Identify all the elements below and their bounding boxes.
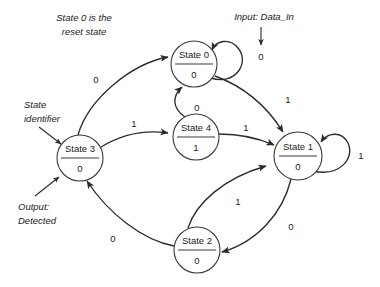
transition-label-s0-s1: 1	[285, 94, 290, 105]
state-label-s2: State 2	[182, 235, 212, 246]
annotation-state-identifier: State identifier	[24, 99, 61, 144]
annotation-output-detected-arrow	[35, 177, 59, 196]
transition-s0-s1	[215, 76, 283, 132]
transition-s2-s1	[188, 166, 266, 228]
annotation-state-identifier-arrow	[39, 127, 61, 144]
annotation-reset-note: State 0 is the reset state	[56, 12, 111, 37]
annotation-output-detected-line1: Output:	[18, 201, 50, 212]
transition-label-s2-s1: 1	[235, 196, 240, 207]
state-machine-diagram: 0 1 0 0 1 1 1 0 1 0 State 0	[0, 0, 380, 287]
annotation-input-data-in-line1: Input: Data_In	[234, 11, 294, 22]
state-output-s1: 0	[295, 161, 300, 172]
state-output-s4: 1	[193, 142, 198, 153]
annotation-input-data-in: Input: Data_In	[234, 11, 294, 45]
annotation-state-identifier-line1: State	[24, 99, 46, 110]
state-label-s1: State 1	[283, 141, 313, 152]
state-output-s2: 0	[194, 255, 199, 266]
state-output-s3: 0	[77, 163, 82, 174]
transition-label-s1-s2: 0	[288, 221, 293, 232]
transition-label-s0-s0-self: 0	[258, 51, 263, 62]
transition-label-s3-s0: 0	[93, 74, 98, 85]
annotation-reset-note-line1: State 0 is the	[56, 12, 111, 23]
transition-s4-s0	[175, 87, 185, 117]
transition-label-s4-s1: 1	[243, 122, 248, 133]
transition-s3-s0	[78, 57, 168, 135]
state-node-s4[interactable]: State 4 1	[173, 114, 219, 160]
state-label-s0: State 0	[179, 49, 209, 60]
annotation-output-detected: Output: Detected	[18, 177, 59, 226]
annotation-reset-note-line2: reset state	[62, 26, 106, 37]
transition-label-s3-s4: 1	[131, 118, 136, 129]
state-output-s0: 0	[191, 69, 196, 80]
transition-s1-s2	[222, 179, 291, 252]
state-node-s2[interactable]: State 2 0	[174, 227, 220, 273]
transition-s3-s4	[101, 132, 168, 147]
state-node-s0[interactable]: State 0 0	[171, 41, 217, 87]
state-node-s3[interactable]: State 3 0	[57, 135, 103, 181]
transition-label-s2-s3: 0	[110, 233, 115, 244]
state-label-s3: State 3	[65, 143, 95, 154]
transition-s4-s1	[219, 134, 274, 145]
annotation-output-detected-line2: Detected	[18, 215, 57, 226]
state-node-s1[interactable]: State 1 0	[274, 132, 322, 180]
fsm-canvas: 0 1 0 0 1 1 1 0 1 0 State 0	[0, 0, 380, 287]
transition-label-s4-s0: 0	[194, 102, 199, 113]
state-label-s4: State 4	[181, 122, 211, 133]
transition-s2-s3	[87, 181, 174, 246]
annotation-state-identifier-line2: identifier	[24, 113, 61, 124]
transition-label-s1-s1-self: 1	[358, 150, 363, 161]
